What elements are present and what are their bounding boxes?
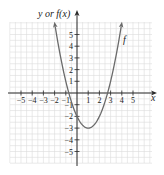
y-axis-label: y or f(x) [37, 8, 71, 20]
y-tick-label: 4 [69, 42, 73, 51]
x-tick-label: −5 [17, 96, 26, 105]
y-tick-label: 5 [69, 31, 73, 40]
x-tick-label: −2 [50, 96, 59, 105]
y-tick-label: −3 [64, 124, 73, 133]
function-graph: −5−4−3−2−11234554321−1−2−3−4−5 y or f(x)… [0, 0, 164, 175]
x-tick-label: 2 [97, 96, 101, 105]
x-tick-label: −4 [28, 96, 37, 105]
x-tick-label: 4 [120, 96, 124, 105]
x-axis-label: x [150, 92, 156, 103]
y-tick-label: 3 [69, 54, 73, 63]
y-tick-label: −2 [64, 112, 73, 121]
y-tick-label: −4 [64, 136, 73, 145]
y-tick-label: 1 [69, 77, 73, 86]
x-tick-label: 1 [86, 96, 90, 105]
y-tick-label: 2 [69, 66, 73, 75]
x-tick-label: 3 [109, 96, 113, 105]
x-tick-label: 5 [131, 96, 135, 105]
curve-label: f [123, 34, 127, 45]
y-tick-label: −5 [64, 148, 73, 157]
x-tick-label: −3 [39, 96, 48, 105]
